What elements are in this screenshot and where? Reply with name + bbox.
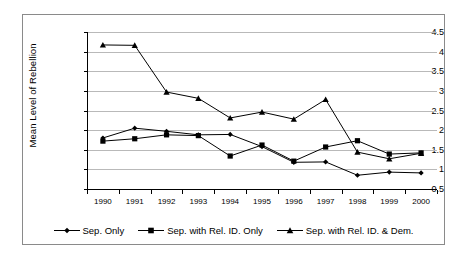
data-point-marker [323, 159, 328, 164]
x-axis-tick-mark [182, 190, 183, 194]
x-axis-tick-label: 1994 [221, 197, 239, 206]
series-3 [100, 42, 424, 161]
gridline [87, 150, 437, 151]
data-point-marker [196, 133, 201, 138]
plot-area: 4.543.532.521.510.5 19901991199219931994… [23, 15, 444, 244]
x-axis-tick-label: 1993 [189, 197, 207, 206]
data-point-marker [323, 144, 328, 149]
x-axis-tick-label: 1998 [349, 197, 367, 206]
x-axis-tick-label: 1996 [285, 197, 303, 206]
legend-item-1[interactable]: Sep. Only [54, 225, 125, 236]
legend-marker-triangle-icon [277, 226, 303, 235]
x-axis-tick-label: 2000 [412, 197, 430, 206]
series-line [103, 135, 421, 161]
gridline [87, 130, 437, 131]
x-axis-tick-mark [119, 190, 120, 194]
x-axis-tick-mark [246, 190, 247, 194]
gridline [87, 71, 437, 72]
data-point-marker [259, 144, 264, 149]
x-axis-line [87, 189, 437, 190]
x-axis-tick-mark [278, 190, 279, 194]
x-axis-tick-label: 1991 [126, 197, 144, 206]
data-point-marker [100, 42, 106, 48]
data-point-marker [227, 115, 233, 121]
x-axis-tick-mark [373, 190, 374, 194]
series-2 [100, 132, 423, 163]
data-point-marker [195, 95, 201, 101]
x-axis-tick-label: 1992 [158, 197, 176, 206]
x-axis-tick-mark [87, 190, 88, 194]
data-point-marker [259, 142, 264, 147]
legend-marker-square-icon [138, 226, 164, 235]
series-line [103, 45, 421, 159]
data-point-marker [355, 138, 360, 143]
x-axis-tick-mark [310, 190, 311, 194]
x-axis-tick-label: 1999 [380, 197, 398, 206]
x-axis-tick-mark [151, 190, 152, 194]
legend-item-label: Sep. with Rel. ID. & Dem. [306, 225, 414, 236]
legend-item-3[interactable]: Sep. with Rel. ID. & Dem. [277, 225, 414, 236]
gridline [87, 169, 437, 170]
data-point-marker [132, 136, 137, 141]
data-point-marker [291, 159, 296, 164]
data-point-marker [132, 42, 138, 48]
gridline [87, 91, 437, 92]
data-point-marker [323, 97, 329, 103]
legend-item-label: Sep. with Rel. ID. Only [167, 225, 263, 236]
legend-item-label: Sep. Only [83, 225, 125, 236]
gridline [87, 52, 437, 53]
data-point-marker [100, 135, 105, 140]
legend-marker-diamond-icon [54, 226, 80, 235]
x-axis-tick-label: 1990 [94, 197, 112, 206]
data-point-marker [291, 116, 297, 122]
legend-item-2[interactable]: Sep. with Rel. ID. Only [138, 225, 263, 236]
data-point-marker [291, 160, 296, 165]
data-point-marker [196, 132, 201, 137]
x-axis-tick-mark [405, 190, 406, 194]
data-point-marker [164, 132, 169, 137]
x-axis-tick-mark [214, 190, 215, 194]
gridline [87, 32, 437, 33]
data-point-marker [386, 156, 392, 162]
chart-frame: Mean Level of Rebellion 4.543.532.521.51… [22, 14, 445, 245]
chart-legend: Sep. OnlySep. with Rel. ID. OnlySep. wit… [23, 225, 444, 236]
x-axis-tick-label: 1997 [317, 197, 335, 206]
data-point-marker [228, 132, 233, 137]
x-axis-tick-mark [437, 190, 438, 194]
series-1 [100, 126, 423, 178]
gridline [87, 111, 437, 112]
x-axis-tick-label: 1995 [253, 197, 271, 206]
data-point-marker [100, 139, 105, 144]
x-axis-tick-mark [342, 190, 343, 194]
y-axis-line [87, 32, 88, 189]
data-point-marker [228, 153, 233, 158]
data-point-marker [355, 173, 360, 178]
